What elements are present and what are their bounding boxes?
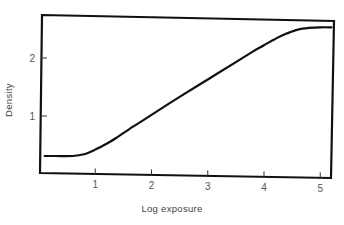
y-tick-label: 2: [29, 53, 35, 64]
x-tick-label: 5: [317, 183, 323, 194]
x-axis-label: Log exposure: [141, 203, 202, 214]
y-axis-label: Density: [3, 83, 14, 117]
y-tick-label: 1: [29, 111, 35, 122]
x-tick-label: 3: [205, 181, 211, 192]
x-tick-label: 2: [149, 180, 155, 191]
x-tick-label: 1: [92, 179, 98, 190]
x-tick-label: 4: [261, 182, 267, 193]
density-curve: [45, 27, 332, 156]
chart-canvas: 1234512 Log exposure Density: [0, 0, 344, 225]
